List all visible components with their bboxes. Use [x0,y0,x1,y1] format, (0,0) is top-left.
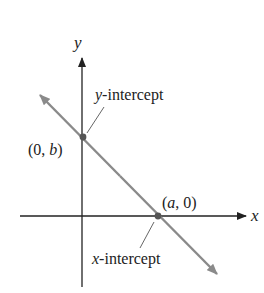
x-intercept-text: -intercept [99,250,161,268]
x-intercept-annotation: x-intercept [91,250,161,268]
x-intercept-point [155,213,162,220]
y-intercept-point [80,134,87,141]
y-axis-label: y [72,33,82,52]
y-coord-var: b [49,141,57,158]
y-intercept-leader [87,107,104,133]
x-axis-label: x [250,206,259,225]
x-coord-close: , 0) [175,194,196,212]
y-coord-close: ) [57,141,62,159]
x-coord-var: a [167,194,175,211]
y-intercept-coords: (0, b) [28,141,63,159]
intercepts-diagram: y x y-intercept (0, b) (a, 0) x-intercep… [0,0,264,293]
x-intercept-coords: (a, 0) [162,194,197,212]
y-coord-open: (0, [28,141,49,159]
y-intercept-text: -intercept [102,86,164,104]
x-intercept-var: x [91,250,99,267]
x-intercept-leader [140,222,154,248]
y-intercept-annotation: y-intercept [93,86,164,104]
